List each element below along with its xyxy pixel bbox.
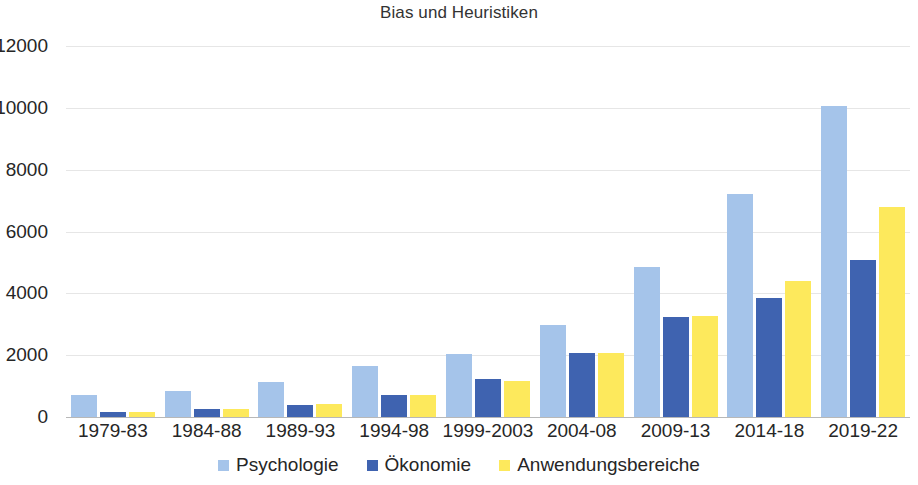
legend-swatch-icon: [499, 460, 510, 471]
legend-swatch-icon: [218, 460, 229, 471]
bar-group: [722, 46, 816, 417]
bar[interactable]: [165, 391, 191, 417]
legend-item[interactable]: Psychologie: [218, 454, 338, 476]
x-axis-tick-label: 2014-18: [722, 420, 816, 442]
x-axis-line: [66, 417, 910, 418]
y-axis-tick-label: 8000: [0, 159, 48, 181]
bar[interactable]: [821, 106, 847, 417]
bar[interactable]: [504, 381, 530, 417]
bar[interactable]: [475, 379, 501, 417]
chart-legend: PsychologieÖkonomieAnwendungsbereiche: [0, 454, 918, 476]
legend-swatch-icon: [367, 460, 378, 471]
bar[interactable]: [663, 317, 689, 417]
x-axis-tick-label: 1979-83: [66, 420, 160, 442]
y-axis-tick-label: 12000: [0, 35, 48, 57]
bar-group: [66, 46, 160, 417]
x-axis-tick-label: 1984-88: [160, 420, 254, 442]
y-axis-tick-label: 0: [0, 406, 48, 428]
bar[interactable]: [634, 267, 660, 417]
bar[interactable]: [352, 366, 378, 417]
bar-group: [160, 46, 254, 417]
bar[interactable]: [381, 395, 407, 417]
x-axis-tick-label: 1989-93: [254, 420, 348, 442]
bar[interactable]: [194, 409, 220, 417]
bar[interactable]: [71, 395, 97, 417]
bar[interactable]: [540, 325, 566, 417]
bar[interactable]: [598, 353, 624, 417]
x-axis-tick-label: 1999-2003: [441, 420, 535, 442]
x-axis-tick-label: 2004-08: [535, 420, 629, 442]
legend-item[interactable]: Ökonomie: [367, 454, 472, 476]
x-axis-labels: 1979-831984-881989-931994-981999-2003200…: [66, 420, 910, 442]
bar-chart: Bias und Heuristiken 0200040006000800010…: [0, 0, 918, 485]
bar[interactable]: [569, 353, 595, 417]
legend-label: Ökonomie: [385, 454, 472, 476]
bar[interactable]: [100, 412, 126, 417]
x-axis-tick-label: 2009-13: [629, 420, 723, 442]
bar[interactable]: [287, 405, 313, 417]
legend-label: Anwendungsbereiche: [517, 454, 700, 476]
bar[interactable]: [727, 194, 753, 417]
chart-title: Bias und Heuristiken: [0, 3, 918, 23]
bar[interactable]: [258, 382, 284, 417]
legend-label: Psychologie: [236, 454, 338, 476]
bar-group: [347, 46, 441, 417]
bar-groups: [66, 46, 910, 417]
bar[interactable]: [316, 404, 342, 417]
bar-group: [254, 46, 348, 417]
bar-group: [535, 46, 629, 417]
bar[interactable]: [879, 207, 905, 417]
bar-group: [629, 46, 723, 417]
bar[interactable]: [692, 316, 718, 417]
bar[interactable]: [129, 412, 155, 417]
bar[interactable]: [785, 281, 811, 417]
bar[interactable]: [446, 354, 472, 417]
bar[interactable]: [410, 395, 436, 417]
y-axis-tick-label: 6000: [0, 221, 48, 243]
bar[interactable]: [850, 260, 876, 417]
y-axis-tick-label: 2000: [0, 344, 48, 366]
y-axis-tick-label: 4000: [0, 282, 48, 304]
bar-group: [441, 46, 535, 417]
legend-item[interactable]: Anwendungsbereiche: [499, 454, 700, 476]
bar[interactable]: [756, 298, 782, 417]
y-axis-tick-label: 10000: [0, 97, 48, 119]
bar[interactable]: [223, 409, 249, 417]
x-axis-tick-label: 1994-98: [347, 420, 441, 442]
bar-group: [816, 46, 910, 417]
x-axis-tick-label: 2019-22: [816, 420, 910, 442]
